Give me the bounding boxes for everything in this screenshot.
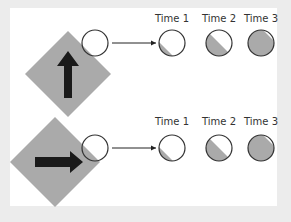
time-circle-2-3: [240, 130, 279, 165]
time-circle-1-2: [200, 30, 232, 60]
time-circle-2-2: [200, 135, 232, 165]
row-2: [10, 117, 279, 207]
time-label-1-2: Time 2: [199, 13, 239, 24]
row-1: [25, 25, 279, 117]
time-label-2-1: Time 1: [152, 116, 192, 127]
time-circle-1-1: [150, 30, 185, 63]
time-label-1-3: Time 3: [241, 13, 281, 24]
time-circle-2-1: [150, 135, 185, 168]
time-circle-1-3: [240, 25, 279, 60]
time-label-1-1: Time 1: [152, 13, 192, 24]
time-label-2-3: Time 3: [241, 116, 281, 127]
time-label-2-2: Time 2: [199, 116, 239, 127]
diagram-canvas: [0, 0, 291, 222]
source-circle-1: [82, 30, 108, 56]
